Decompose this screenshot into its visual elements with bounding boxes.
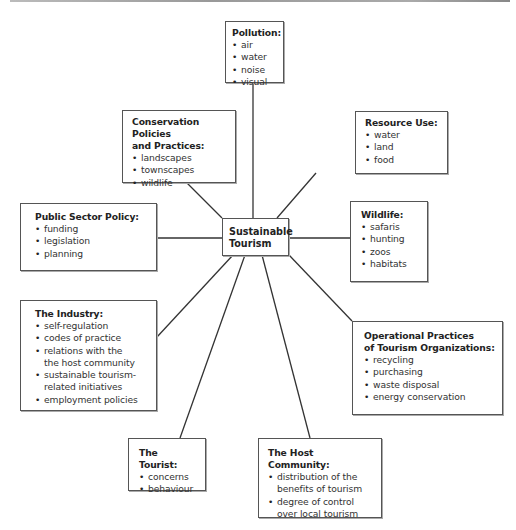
list-item: water xyxy=(232,51,278,63)
list-item: relations with thethe host community xyxy=(35,345,150,370)
node-public-sector: Public Sector Policy: funding legislatio… xyxy=(20,203,157,271)
list-item: sustainable tourism-related initiatives xyxy=(35,369,150,394)
link-resource-use xyxy=(277,173,316,218)
list-item-continuation: the host community xyxy=(44,357,135,368)
link-operational xyxy=(289,255,352,321)
list-item: water xyxy=(365,129,439,141)
list-item: hunting xyxy=(361,233,421,245)
node-operational: Operational Practices of Tourism Organiz… xyxy=(352,321,503,415)
node-wildlife: Wildlife: safaris hunting zoos habitats xyxy=(350,201,428,282)
node-sustainable-tourism: Sustainable Tourism xyxy=(222,218,289,256)
list-item: safaris xyxy=(361,221,421,233)
list-item: behaviour xyxy=(139,483,199,495)
node-industry: The Industry: self-regulation codes of p… xyxy=(20,300,157,411)
node-title: The Industry: xyxy=(35,308,150,320)
list-item: funding xyxy=(35,223,148,235)
node-tourist: The Tourist: concerns behaviour xyxy=(128,438,206,491)
node-host-community: The Host Community: distribution of theb… xyxy=(258,438,382,518)
list-item-text: sustainable tourism- xyxy=(44,369,136,380)
center-title-line1: Sustainable xyxy=(229,226,282,238)
list-item: purchasing xyxy=(364,366,496,378)
list-item: self-regulation xyxy=(35,320,150,332)
center-title-line2: Tourism xyxy=(229,238,282,250)
node-title: Conservation Policies xyxy=(132,116,227,140)
list-item: townscapes xyxy=(132,164,227,176)
list-item-continuation: benefits of tourism xyxy=(277,483,362,494)
list-item-text: relations with the xyxy=(44,345,122,356)
node-title-line2: of Tourism Organizations: xyxy=(364,342,496,354)
list-item: codes of practice xyxy=(35,332,150,344)
list-item: concerns xyxy=(139,471,199,483)
list-item-continuation: over local tourism xyxy=(277,508,358,519)
node-pollution: Pollution: air water noise visual xyxy=(225,21,284,83)
node-title: The Tourist: xyxy=(139,447,199,471)
list-item: legislation xyxy=(35,235,148,247)
link-tourist xyxy=(180,255,245,438)
node-title-line2: and Practices: xyxy=(132,140,227,152)
link-industry xyxy=(157,255,233,337)
list-item: degree of controlover local tourism xyxy=(268,496,375,521)
list-item: land xyxy=(365,141,439,153)
node-conservation: Conservation Policies and Practices: lan… xyxy=(122,110,236,183)
list-item-text: degree of control xyxy=(277,496,354,507)
list-item: recycling xyxy=(364,354,496,366)
list-item: employment policies xyxy=(35,394,150,406)
list-item: wildlife xyxy=(132,177,227,189)
node-title: Operational Practices xyxy=(364,330,496,342)
list-item: planning xyxy=(35,248,148,260)
node-resource-use: Resource Use: water land food xyxy=(355,111,448,174)
list-item: waste disposal xyxy=(364,379,496,391)
list-item: distribution of thebenefits of tourism xyxy=(268,471,375,496)
list-item: noise xyxy=(232,64,278,76)
node-title: The Host Community: xyxy=(268,447,375,471)
node-title: Resource Use: xyxy=(365,117,439,129)
list-item: air xyxy=(232,39,278,51)
list-item: visual xyxy=(232,76,278,88)
list-item: food xyxy=(365,154,439,166)
list-item-continuation: related initiatives xyxy=(44,381,122,392)
node-title: Pollution: xyxy=(232,27,278,39)
list-item-text: distribution of the xyxy=(277,471,357,482)
node-title: Public Sector Policy: xyxy=(35,211,148,223)
list-item: zoos xyxy=(361,246,421,258)
list-item: habitats xyxy=(361,258,421,270)
list-item: energy conservation xyxy=(364,391,496,403)
link-host-community xyxy=(262,255,310,438)
list-item: landscapes xyxy=(132,152,227,164)
node-title: Wildlife: xyxy=(361,209,421,221)
